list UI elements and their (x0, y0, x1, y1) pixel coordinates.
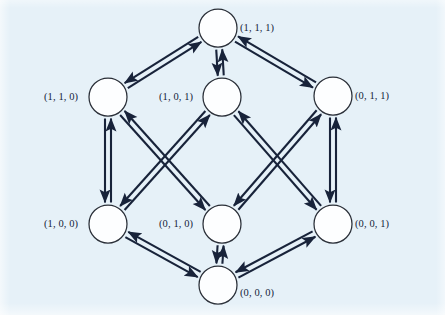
edge-arrow (125, 237, 197, 277)
node-label: (1, 0, 0) (44, 219, 78, 230)
node-label: (0, 1, 0) (159, 219, 193, 230)
edge-arrow (125, 115, 210, 210)
graph-svg (0, 0, 445, 315)
edge-arrow (235, 42, 313, 88)
graph-node[interactable] (199, 266, 237, 304)
node-label: (1, 0, 1) (159, 92, 193, 103)
graph-node[interactable] (89, 78, 127, 116)
node-label: (0, 1, 1) (355, 91, 389, 102)
graph-node[interactable] (203, 78, 241, 116)
node-label: (0, 0, 1) (355, 219, 389, 230)
edge-arrow (238, 36, 316, 82)
edge-arrow (238, 111, 321, 206)
edge-arrow (222, 49, 224, 75)
edge-arrow (125, 111, 210, 206)
graph-node[interactable] (314, 77, 352, 115)
edge-arrow (125, 37, 199, 83)
node-layer (89, 9, 352, 304)
edge-arrow (120, 115, 205, 210)
edge-arrow (238, 237, 315, 278)
edge-arrow (128, 232, 200, 272)
node-label: (1, 1, 1) (240, 23, 274, 34)
graph-node[interactable] (89, 205, 127, 243)
edge-arrow (128, 42, 202, 88)
edge-arrow (234, 110, 317, 206)
diagram-canvas: (1, 1, 1)(1, 1, 0)(1, 0, 1)(0, 1, 1)(1, … (0, 0, 445, 315)
edge-arrow (238, 114, 321, 210)
node-label: (1, 1, 0) (44, 92, 78, 103)
edge-arrow (222, 246, 223, 264)
edge-arrow (236, 231, 313, 272)
graph-node[interactable] (199, 9, 237, 47)
graph-node[interactable] (314, 205, 352, 243)
node-label: (0, 0, 0) (240, 288, 274, 299)
graph-node[interactable] (203, 205, 241, 243)
edge-arrow (216, 50, 218, 76)
edge-arrow (120, 111, 205, 206)
edge-arrow (216, 245, 217, 263)
edge-arrow (234, 115, 317, 210)
